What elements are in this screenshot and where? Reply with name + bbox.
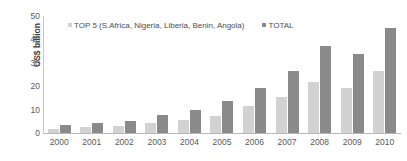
legend-swatch-icon-top5 [68, 23, 72, 27]
y-axis-tick-label: 30 [20, 59, 40, 68]
bar-top5 [210, 116, 221, 133]
plot-area [43, 16, 401, 133]
legend-entry-top5: TOP 5 (S.Africa, Nigeria, Liberia, Benin… [68, 21, 244, 30]
bar-top5 [80, 127, 91, 133]
y-axis-tick-labels: 50403020100 [17, 16, 40, 133]
bar-top5 [178, 120, 189, 133]
bar-group [108, 16, 141, 133]
bar-total [385, 28, 396, 133]
bar-total [92, 123, 103, 133]
y-axis-tick-label: 40 [20, 35, 40, 44]
x-axis-tick-label: 2001 [76, 137, 109, 147]
bar-group [173, 16, 206, 133]
bar-top5 [48, 129, 59, 133]
legend-swatch-icon-total [262, 23, 266, 27]
bar-group [368, 16, 401, 133]
x-axis-tick-label: 2007 [271, 137, 304, 147]
x-axis-tick-label: 2004 [173, 137, 206, 147]
x-axis-tick-label: 2009 [336, 137, 369, 147]
bar-top5 [308, 82, 319, 133]
bar-group [206, 16, 239, 133]
legend-label-total: TOTAL [268, 21, 293, 30]
bars-layer [43, 16, 401, 133]
x-axis-tick-label: 2000 [43, 137, 76, 147]
bar-group [43, 16, 76, 133]
bar-group [336, 16, 369, 133]
bar-top5 [373, 71, 384, 133]
x-axis-tick-label: 2005 [206, 137, 239, 147]
bar-total [320, 46, 331, 133]
bar-group [76, 16, 109, 133]
y-axis-tick-label: 50 [20, 12, 40, 21]
legend-label-top5: TOP 5 (S.Africa, Nigeria, Liberia, Benin… [74, 21, 244, 30]
x-axis-tick-label: 2003 [141, 137, 174, 147]
bar-top5 [276, 97, 287, 134]
x-axis-tick-label: 2006 [238, 137, 271, 147]
y-axis-tick-label: 10 [20, 106, 40, 115]
bar-total [60, 125, 71, 133]
bar-top5 [243, 106, 254, 133]
bar-total [125, 121, 136, 133]
bar-top5 [341, 88, 352, 133]
bar-group [271, 16, 304, 133]
bar-group [141, 16, 174, 133]
bar-group [303, 16, 336, 133]
x-axis-tick-labels: 2000200120022003200420052006200720082009… [43, 137, 401, 151]
chart-legend: TOP 5 (S.Africa, Nigeria, Liberia, Benin… [68, 21, 294, 30]
x-axis-tick-label: 2010 [368, 137, 401, 147]
y-axis-tick-label: 20 [20, 82, 40, 91]
legend-entry-total: TOTAL [262, 21, 293, 30]
bar-total [353, 54, 364, 133]
bar-top5 [113, 126, 124, 133]
x-axis-tick-label: 2008 [303, 137, 336, 147]
bar-total [190, 110, 201, 133]
bar-chart: US$ billion 50403020100 2000200120022003… [0, 0, 407, 161]
bar-top5 [145, 123, 156, 133]
bar-total [157, 115, 168, 133]
bar-group [238, 16, 271, 133]
y-axis-tick-label: 0 [20, 129, 40, 138]
bar-total [222, 101, 233, 133]
x-axis-line [43, 133, 401, 134]
x-axis-tick-label: 2002 [108, 137, 141, 147]
bar-total [255, 88, 266, 133]
bar-total [288, 71, 299, 133]
